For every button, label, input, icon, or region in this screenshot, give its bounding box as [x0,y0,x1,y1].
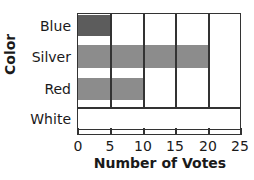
x-axis-label: Number of Votes [94,155,226,171]
x-tick-label-15: 15 [166,138,184,154]
x-tick-label-10: 10 [134,138,152,154]
x-tick-25 [240,128,242,135]
x-tick-20 [208,128,210,135]
category-label-white: White [30,111,71,127]
x-tick-label-5: 5 [106,138,115,154]
plot-area [77,13,242,135]
x-tick-label-25: 25 [231,138,249,154]
category-label-blue: Blue [40,18,71,34]
y-axis-label: Color [2,34,18,75]
x-tick-5 [110,128,112,135]
x-tick-10 [143,128,145,135]
x-tick-15 [175,128,177,135]
plot-frame [77,13,241,130]
x-tick-label-20: 20 [199,138,217,154]
x-axis-strip [77,130,241,135]
category-label-silver: Silver [32,49,71,65]
category-label-red: Red [44,81,71,97]
x-tick-label-0: 0 [74,138,83,154]
x-tick-0 [77,128,79,135]
